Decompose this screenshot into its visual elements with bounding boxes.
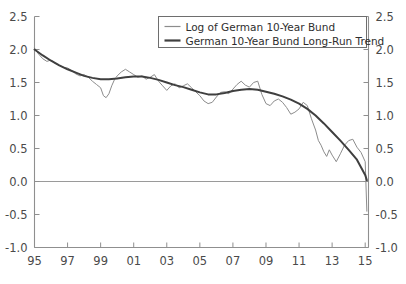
x-tick-label: 15 [358,254,373,268]
y-tick-label-right: 0.0 [376,175,394,189]
bund-yield-line-chart: 2.52.01.51.00.50.0-0.5-1.0 2.52.01.51.00… [0,0,406,284]
x-tick-label: 03 [159,254,174,268]
y-tick-label-right: 1.5 [376,76,394,90]
y-tick-label-right: 2.5 [376,10,394,24]
chart-legend: Log of German 10-Year BundGerman 10-Year… [159,17,385,48]
legend-label-2: German 10-Year Bund Long-Run Trend [186,35,385,47]
chart-container: 2.52.01.51.00.50.0-0.5-1.0 2.52.01.51.00… [0,0,406,284]
x-tick-label: 07 [226,254,241,268]
y-tick-label-left: 1.0 [9,109,27,123]
y-tick-label-left: -0.5 [5,208,27,222]
x-tick-label: 99 [93,254,108,268]
y-tick-label-left: -1.0 [5,241,27,255]
y-tick-label-left: 0.5 [9,142,27,156]
y-tick-label-left: 2.5 [9,10,27,24]
x-tick-label: 09 [259,254,274,268]
x-tick-label: 95 [27,254,42,268]
y-tick-label-right: 0.5 [376,142,394,156]
x-tick-label: 13 [325,254,340,268]
x-tick-label: 11 [292,254,307,268]
y-tick-label-right: 1.0 [376,109,394,123]
y-tick-label-left: 2.0 [9,43,27,57]
y-tick-label-right: -0.5 [376,208,398,222]
y-tick-label-left: 0.0 [9,175,27,189]
x-tick-label: 97 [60,254,75,268]
legend-label-1: Log of German 10-Year Bund [186,21,336,33]
x-tick-label: 05 [193,254,208,268]
y-tick-label-left: 1.5 [9,76,27,90]
y-tick-label-right: -1.0 [376,241,398,255]
x-tick-label: 01 [126,254,141,268]
